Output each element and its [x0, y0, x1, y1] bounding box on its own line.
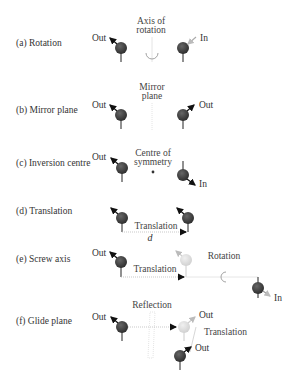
panel-label: (f) Glide plane: [16, 316, 72, 327]
centre-label-line2: symmetry: [134, 157, 172, 167]
panel-b-mirror-plane: (b) Mirror plane Mirror plane Out Out: [16, 82, 214, 130]
atom-left: [111, 317, 128, 341]
panel-label: (a) Rotation: [16, 38, 62, 49]
atom-left: Out: [92, 33, 127, 62]
panel-label: (b) Mirror plane: [16, 105, 78, 116]
atom-right: In: [177, 33, 208, 62]
atom-left: [111, 208, 128, 232]
panel-d-translation: (d) Translation Translation d: [16, 206, 194, 243]
arrow-in-icon: [263, 291, 270, 296]
mirror-label-line2: plane: [142, 91, 163, 101]
inversion-centre-dot: [152, 171, 155, 174]
arrow-out-icon: [110, 105, 117, 111]
panel-label: (e) Screw axis: [16, 254, 71, 265]
panel-label: (d) Translation: [16, 206, 72, 217]
panel-f-glide-plane: (f) Glide plane Out Reflection Out Trans…: [16, 300, 247, 370]
atom-lower: Out: [174, 343, 210, 370]
arrow-label: Out: [195, 343, 210, 353]
ghost-atom: [176, 251, 192, 277]
arrow-out-icon: [111, 158, 118, 164]
panel-a-rotation: (a) Rotation Axis of rotation Out In: [16, 16, 208, 62]
arrow-label: Out: [92, 312, 107, 322]
symmetry-operations-diagram: (a) Rotation Axis of rotation Out In (b)…: [0, 0, 296, 384]
arrow-label: Out: [92, 33, 107, 43]
arrow-label: Out: [199, 310, 214, 320]
arrow-out-icon: [111, 317, 118, 323]
arrow-label: Out: [92, 152, 107, 162]
arrow-out-icon: [187, 105, 194, 111]
arrow-out-icon: [188, 317, 195, 323]
arrow-out-icon: [110, 38, 117, 44]
atom-right: Out: [177, 100, 214, 129]
diagram-canvas: (a) Rotation Axis of rotation Out In (b)…: [0, 0, 296, 384]
axis-label-line2: rotation: [136, 25, 166, 35]
translation-label: Translation: [135, 221, 178, 231]
rotation-label: Rotation: [208, 251, 241, 261]
atom-left: Out: [92, 100, 127, 129]
arrow-label: In: [200, 33, 208, 43]
distance-label: d: [148, 232, 154, 243]
atom-right: [177, 208, 194, 232]
atom-left: [110, 252, 127, 277]
arrow-label: In: [274, 293, 282, 303]
panel-label: (c) Inversion centre: [16, 158, 90, 169]
arrow-label: In: [199, 179, 207, 189]
arrow-in-icon: [188, 37, 196, 44]
translation-label: Translation: [134, 264, 177, 274]
arrow-label: Out: [92, 100, 107, 110]
panel-c-inversion-centre: (c) Inversion centre Centre of symmetry …: [16, 148, 207, 189]
atom-right: In: [177, 161, 207, 189]
arrow-out-icon: [176, 251, 182, 256]
arrow-label: Out: [92, 248, 107, 258]
atom-right: In: [252, 282, 282, 303]
translation-label: Translation: [204, 327, 247, 337]
arrow-out-icon: [177, 208, 184, 214]
reflection-label: Reflection: [132, 300, 172, 310]
arrow-out-icon: [111, 208, 118, 214]
arrow-label: Out: [199, 100, 214, 110]
arrow-out-icon: [110, 252, 117, 258]
atom-left: Out: [92, 152, 128, 182]
panel-e-screw-axis: (e) Screw axis Out Translation Rotation …: [16, 248, 282, 303]
arrow-in-icon: [187, 179, 195, 185]
glide-plane: [148, 312, 155, 358]
